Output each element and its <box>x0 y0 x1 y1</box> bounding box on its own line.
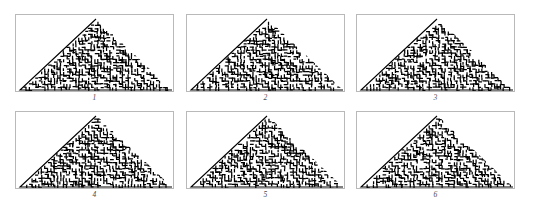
figure-panel-4: 4 <box>15 111 174 200</box>
triangle-maze-1 <box>16 15 174 92</box>
panel-plot-area-2 <box>186 14 345 92</box>
triangle-maze-2 <box>187 15 345 92</box>
panel-plot-area-5 <box>186 111 345 189</box>
figure-panel-3: 3 <box>356 14 515 103</box>
panel-plot-area-1 <box>15 14 174 92</box>
panel-caption-1: 1 <box>93 93 97 103</box>
panel-plot-area-3 <box>356 14 515 92</box>
triangle-maze-6 <box>357 112 515 189</box>
triangle-maze-3 <box>357 15 515 92</box>
panel-caption-3: 3 <box>434 93 438 103</box>
panel-plot-area-4 <box>15 111 174 189</box>
figure-panel-5: 5 <box>186 111 345 200</box>
panel-plot-area-6 <box>356 111 515 189</box>
panel-caption-6: 6 <box>434 190 438 200</box>
panel-caption-5: 5 <box>264 190 268 200</box>
panel-caption-2: 2 <box>264 93 268 103</box>
figure-panel-6: 6 <box>356 111 515 200</box>
figure-panel-grid: 1 2 3 4 5 6 <box>0 0 539 208</box>
figure-panel-2: 2 <box>186 14 345 103</box>
triangle-maze-4 <box>16 112 174 189</box>
figure-panel-1: 1 <box>15 14 174 103</box>
panel-caption-4: 4 <box>93 190 97 200</box>
triangle-maze-5 <box>187 112 345 189</box>
